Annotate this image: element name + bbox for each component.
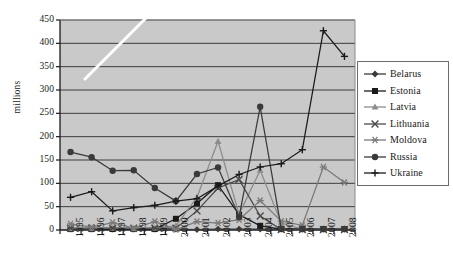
legend-item-belarus[interactable]: Belarus (358, 66, 448, 83)
x-axis-tick-label: 2002 (222, 217, 232, 237)
data-point-marker (257, 104, 263, 110)
line-chart-figure: millions BelarusEstoniaLatviaLithuaniaMo… (0, 0, 453, 270)
y-axis-tick-label: 50 (26, 201, 54, 211)
data-point-marker (320, 226, 326, 232)
data-point-marker (372, 154, 378, 160)
data-point-marker (109, 168, 115, 174)
data-point-marker (194, 171, 200, 177)
data-point-marker (236, 214, 242, 220)
y-axis-tick-label: 350 (26, 61, 54, 71)
x-axis-tick-label: 2004 (264, 217, 274, 237)
x-axis-tick-label: 2003 (243, 217, 253, 237)
legend-marker-diamond-icon (363, 67, 387, 81)
legend-label: Russia (387, 152, 417, 162)
y-axis-tick-label: 0 (26, 224, 54, 234)
x-axis-tick-label: 2000 (180, 217, 190, 237)
data-point-marker (257, 223, 263, 229)
x-axis-tick-label: 2006 (306, 217, 316, 237)
legend-label: Belarus (387, 69, 421, 79)
legend-item-ukraine[interactable]: Ukraine (358, 165, 448, 182)
y-axis-tick-label: 200 (26, 131, 54, 141)
legend-marker-square-icon (363, 84, 387, 98)
legend-marker-asterisk-icon (363, 133, 387, 147)
data-point-marker (372, 88, 378, 94)
plot-area-background (60, 20, 355, 230)
legend-label: Latvia (387, 102, 416, 112)
chart-legend: BelarusEstoniaLatviaLithuaniaMoldovaRuss… (357, 61, 449, 186)
data-point-marker (67, 149, 73, 155)
data-point-marker (371, 137, 378, 143)
legend-label: Lithuania (387, 119, 429, 129)
data-point-marker (299, 226, 305, 232)
legend-item-estonia[interactable]: Estonia (358, 83, 448, 100)
x-axis-tick-label: 1996 (96, 217, 106, 237)
legend-marker-plus-icon (363, 166, 387, 180)
x-axis-tick-label: 2005 (285, 217, 295, 237)
legend-marker-circle-icon (363, 150, 387, 164)
data-point-marker (372, 71, 379, 78)
legend-label: Estonia (387, 86, 421, 96)
data-point-marker (371, 170, 378, 177)
y-axis-tick-label: 250 (26, 107, 54, 117)
data-point-marker (88, 154, 94, 160)
legend-label: Moldova (387, 135, 427, 145)
data-point-marker (278, 225, 284, 231)
y-axis-tick-label: 400 (26, 37, 54, 47)
x-axis-tick-label: 1998 (138, 217, 148, 237)
legend-item-russia[interactable]: Russia (358, 149, 448, 166)
data-point-marker (152, 185, 158, 191)
y-axis-tick-label: 450 (26, 14, 54, 24)
legend-marker-triangle-icon (363, 100, 387, 114)
x-axis-tick-label: 2007 (327, 217, 337, 237)
x-axis-tick-label: 2001 (201, 217, 211, 237)
data-point-marker (341, 226, 347, 232)
y-axis-tick-label: 300 (26, 84, 54, 94)
x-axis-tick-label: 1999 (159, 217, 169, 237)
data-point-marker (131, 167, 137, 173)
x-axis-tick-label: 1997 (117, 217, 127, 237)
legend-label: Ukraine (387, 168, 423, 178)
y-axis-tick-label: 150 (26, 154, 54, 164)
data-point-marker (173, 216, 179, 222)
x-axis-tick-label: 1995 (75, 217, 85, 237)
legend-item-lithuania[interactable]: Lithuania (358, 116, 448, 133)
y-axis-tick-label: 100 (26, 177, 54, 187)
legend-item-latvia[interactable]: Latvia (358, 99, 448, 116)
x-axis-tick-label: 2008 (348, 217, 358, 237)
data-point-marker (215, 164, 221, 170)
legend-marker-x-icon (363, 117, 387, 131)
legend-item-moldova[interactable]: Moldova (358, 132, 448, 149)
